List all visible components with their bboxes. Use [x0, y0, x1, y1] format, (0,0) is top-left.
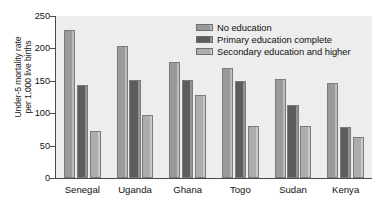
legend-swatch-icon [196, 24, 213, 31]
y-axis-tick-mark [50, 48, 55, 49]
bar [248, 126, 259, 178]
legend-swatch-icon [196, 48, 213, 55]
bar [287, 105, 298, 178]
y-axis-tick-label: 100 [35, 108, 50, 118]
bar [235, 81, 246, 178]
y-axis-tick-mark [50, 178, 55, 179]
bar [64, 30, 75, 178]
legend-item: No education [196, 22, 351, 33]
x-axis-tick-label: Uganda [118, 184, 152, 195]
y-axis-tick-label: 200 [35, 43, 50, 53]
bar [275, 79, 286, 178]
legend-item-label: Primary education complete [217, 34, 332, 45]
bar [222, 68, 233, 178]
y-axis-tick-mark [50, 81, 55, 82]
legend-item: Primary education complete [196, 34, 351, 45]
y-axis-tick-mark [50, 113, 55, 114]
x-axis-tick-label: Ghana [173, 184, 202, 195]
x-axis-tick-label: Sudan [279, 184, 307, 195]
x-axis-tick-labels: SenegalUgandaGhanaTogoSudanKenya [56, 184, 372, 200]
bar [117, 46, 128, 178]
bar [340, 127, 351, 178]
y-axis-title-line-1: Under-5 mortality rate [13, 0, 23, 157]
bar-chart: Under-5 mortality rate per 1,000 live bi… [0, 0, 382, 221]
bar [77, 85, 88, 178]
x-axis-tick-label: Kenya [332, 184, 359, 195]
legend-swatch-icon [196, 36, 213, 43]
y-axis-tick-mark [50, 146, 55, 147]
y-axis-tick-label: 50 [40, 141, 50, 151]
y-axis-tick-label: 250 [35, 11, 50, 21]
bar [169, 62, 180, 178]
bar [327, 83, 338, 178]
legend: No educationPrimary education completeSe… [196, 22, 351, 57]
legend-item-label: Secondary education and higher [217, 46, 351, 57]
x-axis-line [55, 178, 372, 179]
legend-item: Secondary education and higher [196, 46, 351, 57]
bar [353, 137, 364, 178]
bar [142, 115, 153, 178]
bar [195, 95, 206, 178]
bar [300, 126, 311, 178]
y-axis-tick-mark [50, 16, 55, 17]
x-axis-tick-label: Senegal [65, 184, 100, 195]
y-axis-tick-labels: 050100150200250 [24, 16, 50, 178]
bar [129, 80, 140, 178]
x-axis-tick-label: Togo [230, 184, 251, 195]
legend-item-label: No education [217, 22, 272, 33]
bar [90, 131, 101, 178]
y-axis-tick-label: 150 [35, 76, 50, 86]
bar [182, 80, 193, 178]
